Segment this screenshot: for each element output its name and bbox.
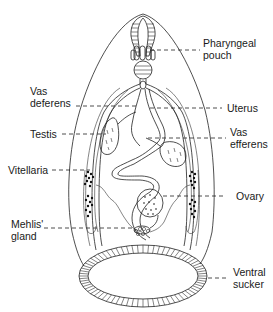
mehlis-gland	[134, 226, 150, 236]
sucker-rim-tick	[185, 291, 192, 296]
sucker-rim-tick	[121, 247, 124, 255]
sucker-rim-tick	[85, 286, 93, 289]
vitellaria-right	[189, 171, 196, 218]
sucker-rim-tick	[106, 251, 111, 258]
label-vitellaria: Vitellaria	[8, 164, 48, 176]
sucker-rim-tick	[79, 273, 88, 274]
sucker-rim-tick	[193, 263, 201, 266]
label-ovary: Ovary	[236, 190, 265, 202]
sucker-rim-tick	[102, 294, 108, 300]
label-uterus: Uterus	[227, 102, 258, 114]
ovary	[137, 189, 163, 217]
sucker-rim-tick	[88, 261, 96, 265]
sucker-rim-tick	[94, 256, 101, 261]
sucker-rim-tick	[198, 273, 207, 274]
sucker-rim-tick	[132, 299, 134, 307]
testis-right	[160, 142, 186, 167]
sucker-rim-tick	[81, 282, 90, 284]
fluke-diagram: Pharyngealpouch Vasdeferens Uterus Testi…	[0, 0, 273, 312]
label-vas-deferens: Vasdeferens	[30, 85, 71, 109]
sucker-rim-tick	[178, 252, 184, 258]
sucker-rim-tick	[80, 271, 89, 272]
sucker-rim-tick	[126, 298, 128, 306]
caecum-right	[146, 84, 194, 250]
sucker-rim-tick	[102, 252, 108, 258]
sucker-rim-tick	[121, 298, 124, 306]
sucker-rim-tick	[111, 249, 116, 256]
sucker-rim-tick	[182, 254, 188, 260]
sucker-rim-tick	[157, 246, 159, 254]
sucker-rim-tick	[171, 296, 176, 303]
sucker-rim-tick	[197, 271, 206, 272]
vas-deferens-tube	[131, 89, 141, 146]
genital-pore	[140, 81, 146, 89]
vitellaria-right-outline	[186, 170, 199, 234]
label-ventral-sucker: Ventralsucker	[233, 266, 266, 290]
sucker-rim-tick	[191, 288, 199, 292]
sucker-rim-tick	[166, 248, 170, 255]
sucker-rim-tick	[175, 251, 180, 258]
sucker-rim-tick	[88, 288, 96, 292]
sucker-rim-tick	[188, 289, 195, 294]
ventral-sucker	[79, 245, 207, 307]
uterus-tube	[112, 89, 160, 240]
caecum-left-inner	[99, 88, 140, 246]
sucker-rim-tick	[137, 299, 138, 307]
vitelline-duct-left	[96, 185, 142, 232]
label-vas-efferens: Vasefferens	[230, 126, 268, 150]
sucker-rim-tick	[126, 246, 128, 254]
pharynx	[134, 61, 152, 79]
sucker-rim-tick	[98, 254, 104, 260]
testis-right-texture	[168, 148, 181, 162]
sucker-rim-tick	[98, 292, 104, 298]
sucker-rim-tick	[191, 261, 199, 265]
sucker-rim-tick	[197, 280, 206, 281]
sucker-rim-tick	[111, 296, 116, 303]
sucker-rim-tick	[188, 258, 195, 263]
caecum-right-inner	[146, 88, 187, 246]
sucker-rim-tick	[91, 258, 98, 263]
inner-body-line-left	[86, 88, 120, 246]
sucker-rim-tick	[148, 299, 149, 307]
sucker-rim-tick	[162, 298, 165, 306]
sucker-rim-tick	[94, 291, 101, 296]
sucker-rim-tick	[83, 284, 91, 287]
sucker-rim-tick	[91, 289, 98, 294]
sucker-rim-tick	[132, 245, 134, 253]
sucker-rim-tick	[106, 295, 111, 302]
sucker-rim-tick	[175, 295, 180, 302]
sucker-rim-tick	[193, 286, 201, 289]
sucker-rim-tick	[83, 265, 91, 268]
label-mehlis-gland: Mehlis'gland	[11, 218, 43, 242]
label-pharyngeal-pouch: Pharyngealpouch	[203, 37, 256, 61]
sucker-rim-tick	[162, 247, 165, 255]
sucker-rim-tick	[153, 245, 155, 253]
sucker-rim-tick	[85, 263, 93, 266]
sucker-rim-tick	[80, 280, 89, 281]
sucker-rim-tick	[185, 256, 192, 261]
testis-left-texture	[106, 128, 113, 150]
sucker-rim-tick	[116, 248, 120, 255]
sucker-rim-tick	[178, 294, 184, 300]
sucker-rim-tick	[195, 265, 203, 268]
sucker-rim-tick	[79, 278, 88, 279]
sucker-rim-tick	[116, 297, 120, 304]
sucker-rim-tick	[196, 282, 205, 284]
sucker-rim-tick	[157, 298, 159, 306]
sucker-rim-tick	[137, 245, 138, 253]
inner-body-line-right	[166, 88, 199, 246]
testis-left	[100, 118, 119, 155]
label-testis: Testis	[30, 128, 57, 140]
sucker-rim-tick	[166, 297, 170, 304]
sucker-rim-tick	[81, 268, 90, 270]
sucker-rim-tick	[171, 249, 176, 256]
sucker-rim-tick	[195, 284, 203, 287]
sucker-rim-tick	[148, 245, 149, 253]
sucker-rim-tick	[196, 268, 205, 270]
sucker-rim-tick	[198, 278, 207, 279]
vitellaria-left	[84, 171, 94, 217]
sucker-rim-tick	[182, 292, 188, 298]
sucker-rim-tick	[153, 299, 155, 307]
